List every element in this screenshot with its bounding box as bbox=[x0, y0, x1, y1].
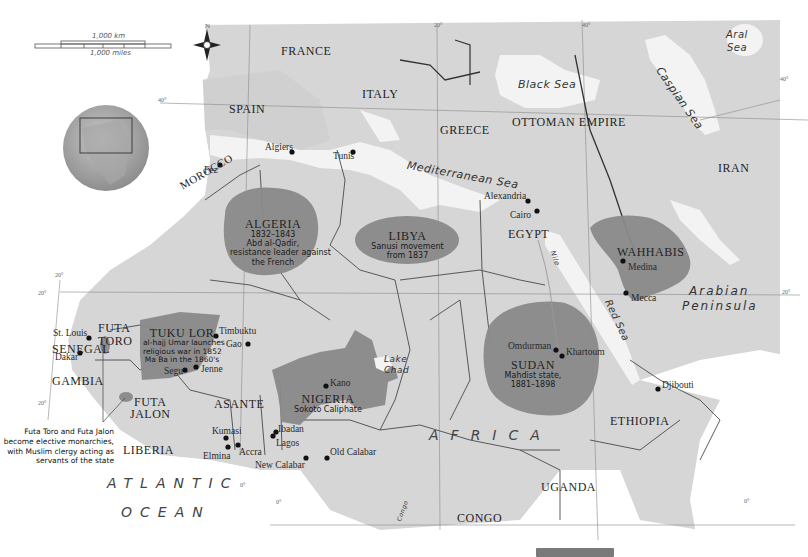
city-accra: Accra bbox=[239, 448, 262, 458]
label-futa-toro-2: TORO bbox=[98, 335, 132, 347]
lat-20-label-c: 20° bbox=[38, 400, 46, 406]
city-timbuktu: Timbuktu bbox=[219, 327, 256, 337]
label-liberia: LIBERIA bbox=[123, 444, 174, 456]
region-futa-jalon bbox=[119, 392, 133, 402]
movement-algeria-line: Abd al-Qadir, bbox=[230, 239, 316, 248]
lat-40-right-label: 40° bbox=[780, 76, 788, 82]
city-new-calabar: New Calabar bbox=[255, 461, 305, 471]
lon-40-label: 40° bbox=[582, 22, 590, 28]
label-aral-sea-1: Aral bbox=[726, 30, 748, 40]
label-futa-toro-1: FUTA bbox=[98, 322, 130, 334]
city-jenne: Jenne bbox=[201, 365, 223, 375]
lat-40-label: 40° bbox=[158, 97, 166, 103]
compass-north-label: N bbox=[205, 23, 210, 30]
label-black-sea: Black Sea bbox=[518, 79, 576, 90]
city-st-louis: St. Louis bbox=[53, 329, 87, 339]
movement-algeria-line: resistance leader against bbox=[230, 248, 316, 257]
scale-miles-label: 1,000 miles bbox=[90, 50, 131, 57]
city-omdurman: Omdurman bbox=[508, 342, 551, 352]
movement-algeria-line: the French bbox=[230, 258, 316, 267]
futa-annotation: Futa Toro and Futa Jalon become elective… bbox=[0, 427, 114, 466]
equator-left-label: 0° bbox=[276, 499, 281, 505]
label-arabian: Arabian bbox=[689, 285, 749, 297]
movement-algeria-title: ALGERIA bbox=[230, 218, 316, 230]
futa-annotation-line: with Muslim clergy acting as bbox=[0, 447, 114, 457]
movement-wahhabis: WAHHABIS bbox=[617, 246, 684, 258]
label-ethiopia: ETHIOPIA bbox=[610, 415, 669, 427]
map-base bbox=[0, 0, 808, 557]
movement-libya: LIBYA Sanusi movement from 1837 bbox=[360, 230, 455, 260]
label-uganda: UGANDA bbox=[541, 481, 596, 493]
locator-globe bbox=[63, 105, 149, 191]
label-congo: CONGO bbox=[457, 512, 502, 524]
futa-annotation-line: Futa Toro and Futa Jalon bbox=[0, 427, 114, 437]
label-asante: ASANTE bbox=[214, 398, 264, 410]
label-ocean: OCEAN bbox=[121, 505, 211, 519]
meridian-0-label: 0° bbox=[240, 482, 245, 488]
movement-nigeria: NIGERIA Sokoto Caliphate bbox=[293, 393, 363, 414]
label-greece: GREECE bbox=[440, 124, 490, 136]
movement-libya-title: LIBYA bbox=[360, 230, 455, 242]
label-italy: ITALY bbox=[362, 88, 398, 100]
movement-libya-line: from 1837 bbox=[360, 251, 455, 260]
label-lake-chad-2: Chad bbox=[384, 366, 409, 375]
city-djibouti: Djibouti bbox=[662, 381, 694, 391]
label-france: FRANCE bbox=[281, 45, 331, 57]
label-spain: SPAIN bbox=[229, 103, 265, 115]
scrollbar-handle[interactable] bbox=[536, 548, 614, 557]
label-aral-sea-2: Sea bbox=[727, 43, 747, 53]
label-africa: AFRICA bbox=[429, 428, 552, 442]
label-gambia: GAMBIA bbox=[52, 375, 104, 387]
movement-nigeria-title: NIGERIA bbox=[293, 393, 363, 405]
city-mecca: Mecca bbox=[631, 294, 656, 304]
movement-nigeria-line: Sokoto Caliphate bbox=[293, 405, 363, 414]
city-kumasi: Kumasi bbox=[212, 427, 242, 437]
label-lake-chad-1: Lake bbox=[384, 355, 407, 364]
label-ottoman-empire: OTTOMAN EMPIRE bbox=[512, 116, 626, 128]
city-tunis: Tunis bbox=[333, 152, 354, 162]
city-algiers: Algiers bbox=[265, 143, 293, 153]
lat-20-label-a: 20° bbox=[55, 272, 63, 278]
movement-tukulor: TUKU LOR al-hajj Umar launches religious… bbox=[143, 327, 221, 365]
city-alexandria: Alexandria bbox=[484, 192, 526, 202]
label-egypt: EGYPT bbox=[508, 228, 549, 240]
scale-km-label: 1,000 km bbox=[92, 33, 125, 40]
city-elmina: Elmina bbox=[203, 452, 230, 462]
label-atlantic: ATLANTIC bbox=[107, 476, 238, 490]
movement-sudan-line: 1881–1898 bbox=[498, 380, 568, 389]
city-fez: Fez bbox=[204, 166, 218, 176]
equator-right-label: 0° bbox=[744, 498, 749, 504]
city-old-calabar: Old Calabar bbox=[330, 448, 376, 458]
futa-annotation-line: servants of the state bbox=[0, 456, 114, 466]
movement-sudan: SUDAN Mahdist state, 1881–1898 bbox=[498, 359, 568, 389]
city-khartoum: Khartoum bbox=[566, 348, 605, 358]
movement-algeria-line: 1832–1843 bbox=[230, 230, 316, 239]
movement-wahhabis-title: WAHHABIS bbox=[617, 246, 684, 258]
city-segu: Segu bbox=[164, 367, 183, 377]
movement-libya-line: Sanusi movement bbox=[360, 242, 455, 251]
label-futa-jalon-2: JALON bbox=[130, 408, 171, 420]
lat-20-label-b: 20° bbox=[38, 290, 46, 296]
city-lagos: Lagos bbox=[276, 439, 299, 449]
label-iran: IRAN bbox=[718, 162, 749, 174]
city-gao: Gao bbox=[226, 340, 242, 350]
historical-map: 1,000 km 1,000 miles N 40° 20° 20° 20° 2… bbox=[0, 0, 808, 557]
city-kano: Kano bbox=[330, 379, 351, 389]
city-dakar: Dakar bbox=[55, 353, 78, 363]
movement-sudan-line: Mahdist state, bbox=[498, 371, 568, 380]
city-ibadan: Ibadan bbox=[278, 425, 304, 435]
city-cairo: Cairo bbox=[510, 211, 531, 221]
lon-20-label: 20° bbox=[434, 22, 442, 28]
movement-sudan-title: SUDAN bbox=[498, 359, 568, 371]
city-medina: Medina bbox=[628, 263, 657, 273]
movement-algeria: ALGERIA 1832–1843 Abd al-Qadir, resistan… bbox=[230, 218, 316, 267]
lat-20-right-label: 20° bbox=[782, 289, 790, 295]
label-peninsula: Peninsula bbox=[682, 300, 758, 312]
futa-annotation-line: become elective monarchies, bbox=[0, 437, 114, 447]
